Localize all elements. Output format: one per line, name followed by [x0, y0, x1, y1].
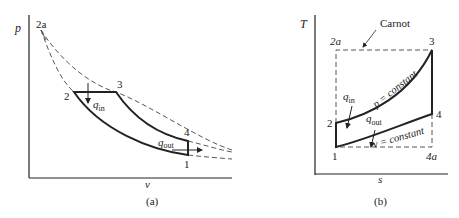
ts-point-4: 4	[436, 108, 442, 120]
pv-point-2a: 2a	[36, 18, 47, 30]
pv-qout-label: qout	[158, 136, 175, 150]
pv-point-2: 2	[64, 90, 70, 102]
pv-point-1: 1	[184, 158, 190, 170]
pv-y-axis-label: p	[14, 21, 21, 35]
ts-point-2a: 2a	[330, 35, 342, 47]
otto-cycle-figure: p v (a) 2a 2 3 4 1 qin qout T s (b) Carn…	[0, 0, 459, 218]
ts-carnot-pointer	[363, 30, 376, 47]
ts-upper-curve-label: p = constant	[370, 68, 420, 111]
ts-lower-curve-label: v = constant	[372, 125, 427, 150]
ts-y-axis-label: T	[300, 17, 308, 31]
ts-point-4a: 4a	[426, 150, 438, 162]
pv-2a-arrow	[41, 30, 46, 40]
pv-diagram: p v (a) 2a 2 3 4 1 qin qout	[14, 15, 232, 208]
ts-qin-arrow	[347, 106, 352, 128]
ts-x-axis-label: s	[378, 173, 382, 185]
pv-caption: (a)	[146, 195, 159, 208]
ts-point-1: 1	[332, 150, 338, 162]
ts-caption: (b)	[374, 195, 387, 208]
ts-qin-label: qin	[343, 90, 355, 105]
ts-point-2: 2	[327, 117, 333, 129]
ts-point-3: 3	[429, 35, 435, 47]
pv-point-4: 4	[184, 126, 190, 138]
pv-qin-label: qin	[93, 98, 105, 113]
ts-qout-label: qout	[366, 112, 383, 127]
pv-point-3: 3	[117, 78, 123, 90]
ts-carnot-label: Carnot	[380, 17, 410, 29]
pv-isentrope-upper-dashed	[41, 30, 232, 150]
ts-diagram: T s (b) Carnot 2a 3 2 4 1 4a p = constan…	[300, 15, 448, 208]
pv-x-axis-label: v	[145, 178, 150, 190]
pv-isentrope-lower-dashed	[188, 155, 232, 159]
